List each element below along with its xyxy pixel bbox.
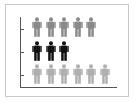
- person-icon: [73, 17, 83, 37]
- person-icon: [59, 64, 69, 84]
- person-icon: [46, 41, 56, 61]
- person-icon: [73, 64, 83, 84]
- person-icon: [32, 41, 42, 61]
- y-tick-1: [20, 29, 24, 30]
- person-icon: [86, 64, 96, 84]
- pictogram-row-3: [32, 64, 110, 84]
- person-icon: [86, 17, 96, 37]
- person-icon: [46, 17, 56, 37]
- y-tick-2: [20, 52, 24, 53]
- person-icon: [59, 41, 69, 61]
- person-icon: [32, 64, 42, 84]
- x-axis: [20, 87, 117, 88]
- pictogram-row-2: [32, 41, 69, 61]
- pictogram-row-1: [32, 17, 96, 37]
- person-icon: [46, 64, 56, 84]
- person-icon: [100, 64, 110, 84]
- y-tick-3: [20, 75, 24, 76]
- person-icon: [32, 17, 42, 37]
- person-icon: [59, 17, 69, 37]
